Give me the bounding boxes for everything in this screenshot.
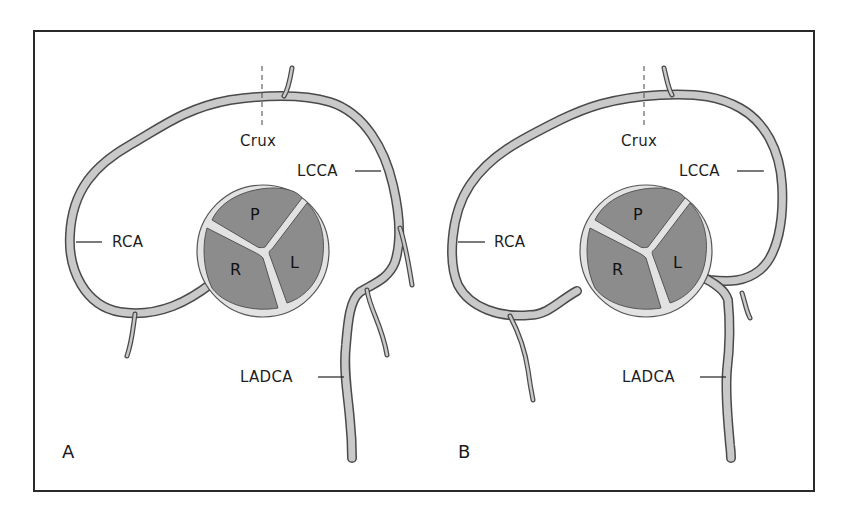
rca-label-a: RCA	[112, 235, 143, 250]
aortic-valve-a	[197, 185, 329, 317]
coronary-diagram: .vo { fill:none; stroke:#4a4a4a; stroke-…	[0, 0, 845, 506]
ladca-label-b: LADCA	[622, 370, 675, 385]
lad-side-branch-b	[742, 293, 750, 318]
rca-label-b: RCA	[494, 235, 525, 250]
ladca-vessel-b	[700, 276, 731, 458]
crux-label-a: Crux	[240, 134, 276, 149]
lcca-side-branch-a	[367, 228, 412, 355]
cusp-l-label-a: L	[290, 255, 299, 271]
cusp-l-label-b: L	[673, 255, 682, 271]
crux-label-b: Crux	[621, 134, 657, 149]
cusp-r-label-b: R	[612, 262, 623, 278]
rca-branch-b	[510, 316, 533, 400]
panel-letter-a: A	[62, 443, 74, 461]
panel-letter-b: B	[458, 443, 470, 461]
lcca-label-b: LCCA	[679, 164, 720, 179]
cusp-p-label-b: P	[633, 207, 643, 223]
ladca-label-a: LADCA	[240, 370, 293, 385]
rca-branch-a	[127, 314, 135, 356]
cusp-p-label-a: P	[250, 207, 260, 223]
aortic-valve-b	[580, 185, 712, 317]
lcca-label-a: LCCA	[297, 164, 338, 179]
cusp-r-label-a: R	[230, 262, 241, 278]
